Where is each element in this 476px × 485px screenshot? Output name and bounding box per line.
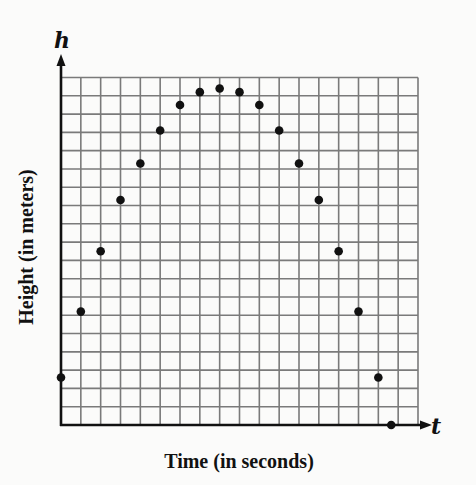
data-point xyxy=(255,101,264,110)
data-point xyxy=(57,373,66,382)
data-point xyxy=(215,84,224,93)
grid-lines xyxy=(61,78,418,426)
data-point xyxy=(315,196,324,205)
data-point xyxy=(136,159,145,168)
data-point xyxy=(275,126,284,135)
data-point xyxy=(196,88,205,97)
data-point xyxy=(295,159,304,168)
data-point xyxy=(235,88,244,97)
y-axis-arrow-icon xyxy=(57,54,66,66)
scatter-chart: h t Time (in seconds) Height (in meters) xyxy=(0,0,476,485)
data-point xyxy=(354,307,363,316)
data-point xyxy=(176,101,185,110)
data-point xyxy=(374,373,383,382)
x-axis-variable: t xyxy=(431,413,441,439)
data-point xyxy=(77,307,86,316)
data-point xyxy=(96,247,105,256)
y-axis-title: Height (in meters) xyxy=(15,169,38,325)
data-point xyxy=(387,421,396,430)
data-point xyxy=(116,196,125,205)
data-points xyxy=(57,84,396,429)
y-axis-variable: h xyxy=(54,27,70,53)
data-point xyxy=(334,247,343,256)
x-axis-title: Time (in seconds) xyxy=(164,450,314,473)
data-point xyxy=(156,126,165,135)
